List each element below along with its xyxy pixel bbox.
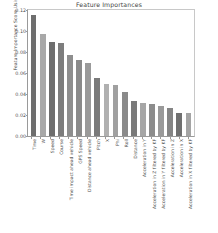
bar [94, 78, 100, 136]
bar [76, 60, 82, 136]
x-axis-tick-label: Phi [115, 139, 120, 146]
x-axis-tick-label: Distance [133, 139, 138, 159]
bar [167, 108, 173, 136]
x-axis-tick-label: Time impact ahead vehicle [69, 139, 74, 200]
x-axis-tick-label: Time [32, 139, 37, 150]
y-axis-tick-label: 0.12 [15, 8, 26, 13]
x-axis-tick-label: Distance ahead vehicle [87, 139, 92, 192]
bar [149, 104, 155, 136]
x-axis-tick-label: GPS Speed [78, 139, 83, 164]
x-axis-tick-label: Acceleration in Y [142, 139, 147, 177]
y-axis-tick-label: 0.04 [15, 92, 26, 97]
y-axis-tick-mark [26, 136, 28, 137]
x-axis-tick-label: W [41, 139, 46, 143]
bar [49, 42, 55, 136]
y-axis-tick-mark [26, 52, 28, 53]
x-axis-tick-label: Acceleration in Z filtered by KF [152, 139, 157, 209]
y-axis-tick-label: 0.02 [15, 113, 26, 118]
x-axis-tick-label: Roll [124, 139, 129, 147]
bar [40, 34, 46, 136]
y-axis-tick-mark [26, 73, 28, 74]
bar [176, 113, 182, 136]
bar [186, 113, 192, 136]
y-axis-tick-mark [26, 10, 28, 11]
y-axis-tick-label: 0.08 [15, 50, 26, 55]
y-axis-tick-label: 0.10 [15, 29, 26, 34]
bar [58, 43, 64, 136]
x-axis-tick-label: Course [59, 139, 64, 155]
y-axis-tick-mark [26, 31, 28, 32]
x-axis-tick-label: Pitch [96, 139, 101, 150]
x-axis-tick-labels: TimeWSpeedCourseTime impact ahead vehicl… [27, 139, 195, 233]
x-axis-tick-label: Acceleration in X [179, 139, 184, 177]
bar [85, 63, 91, 136]
bar [140, 103, 146, 136]
y-axis-tick-label: 0.00 [15, 134, 26, 139]
bar [67, 55, 73, 136]
y-axis-tick-mark [26, 115, 28, 116]
y-axis-tick-label: 0.06 [15, 71, 26, 76]
y-axis-tick-mark [26, 94, 28, 95]
bar [122, 92, 128, 136]
plot-area: 0.000.020.040.060.080.100.12 [27, 9, 195, 137]
bar-series [28, 10, 194, 136]
x-axis-tick-label: Speed [50, 139, 55, 153]
x-axis-tick-label: Acceleration in Z [170, 139, 175, 177]
chart-title: Feature Importances [0, 1, 218, 8]
x-axis-tick-label: Acceleration in Y filtered by KF [161, 139, 166, 209]
bar [131, 101, 137, 136]
x-axis-tick-label: X [105, 139, 110, 142]
bar [31, 15, 37, 136]
bar [104, 84, 110, 136]
x-axis-tick-label: Acceleration in X filtered by KF [188, 139, 193, 209]
figure-canvas: Feature Importances Feature Importance S… [0, 0, 218, 233]
bar [158, 106, 164, 136]
bar [113, 85, 119, 136]
